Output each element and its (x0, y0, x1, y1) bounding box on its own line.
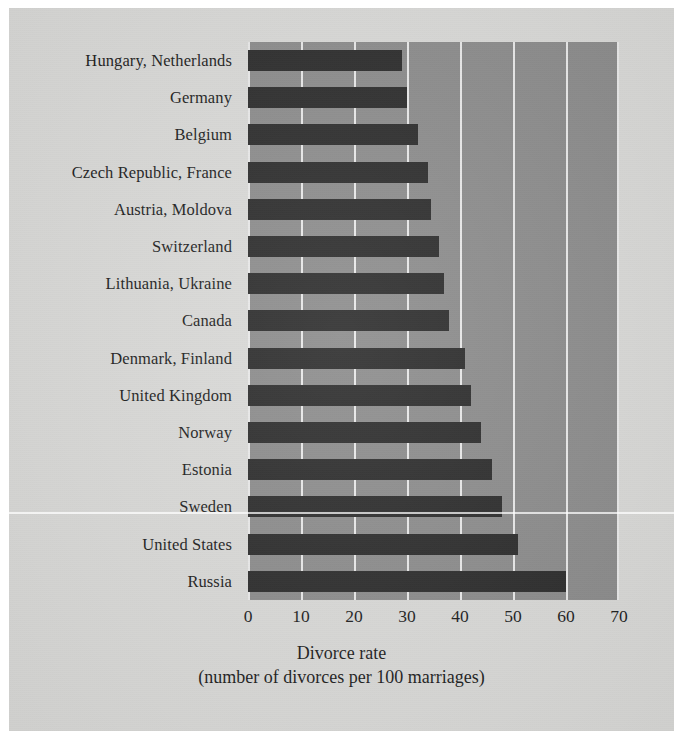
category-label: United Kingdom (119, 377, 232, 414)
category-label: Switzerland (152, 228, 232, 265)
x-tick-label: 30 (398, 606, 416, 627)
x-tick-label: 0 (244, 606, 253, 627)
bar (248, 236, 439, 257)
x-tick-label: 60 (557, 606, 575, 627)
bar-row (248, 228, 619, 265)
bar-row (248, 563, 619, 600)
bar-row (248, 414, 619, 451)
category-label: United States (142, 526, 232, 563)
bar-row (248, 451, 619, 488)
x-tick-label: 70 (610, 606, 628, 627)
bar (248, 385, 471, 406)
category-label: Austria, Moldova (114, 191, 232, 228)
bar-row (248, 42, 619, 79)
bar-row (248, 191, 619, 228)
category-label: Estonia (182, 451, 232, 488)
category-label: Sweden (179, 488, 232, 525)
bar (248, 87, 407, 108)
bar (248, 422, 481, 443)
x-axis-title-line-1: Divorce rate (9, 641, 674, 665)
bar-row (248, 488, 619, 525)
bar (248, 199, 431, 220)
bar-row (248, 302, 619, 339)
x-tick-label: 50 (504, 606, 522, 627)
bar (248, 534, 518, 555)
category-label: Belgium (174, 116, 232, 153)
bar (248, 124, 418, 145)
category-axis-labels: Hungary, NetherlandsGermanyBelgiumCzech … (18, 42, 240, 600)
category-label: Denmark, Finland (110, 340, 232, 377)
x-tick-label: 10 (292, 606, 310, 627)
bar (248, 50, 402, 71)
bar (248, 496, 502, 517)
category-label: Norway (178, 414, 232, 451)
category-label: Czech Republic, France (72, 154, 232, 191)
x-tick-label: 40 (451, 606, 469, 627)
bar (248, 273, 444, 294)
bar-row (248, 79, 619, 116)
bar (248, 571, 566, 592)
plot-area (248, 42, 619, 600)
bar-row (248, 377, 619, 414)
x-axis-title: Divorce rate (number of divorces per 100… (9, 641, 674, 690)
bar (248, 310, 449, 331)
bar-row (248, 526, 619, 563)
category-label: Hungary, Netherlands (85, 42, 232, 79)
bar (248, 348, 465, 369)
x-tick-label: 20 (345, 606, 363, 627)
bar-row (248, 116, 619, 153)
divorce-rate-bar-chart-figure: Hungary, NetherlandsGermanyBelgiumCzech … (0, 0, 683, 739)
bar-row (248, 340, 619, 377)
bar-row (248, 265, 619, 302)
x-axis-tick-labels: 010203040506070 (248, 606, 619, 632)
bar (248, 162, 428, 183)
bar (248, 459, 492, 480)
category-label: Russia (187, 563, 232, 600)
category-label: Canada (182, 302, 232, 339)
category-label: Germany (170, 79, 232, 116)
category-label: Lithuania, Ukraine (106, 265, 232, 302)
x-axis-title-line-2: (number of divorces per 100 marriages) (9, 665, 674, 690)
bar-row (248, 154, 619, 191)
